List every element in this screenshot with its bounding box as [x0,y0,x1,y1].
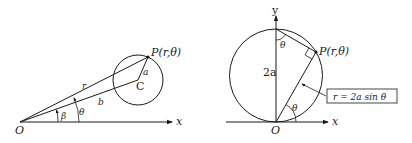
equation-label: r = 2a sin θ [333,92,387,102]
point-p [146,55,149,58]
equation-leader [302,84,326,96]
theta-label: θ [79,107,85,117]
radius-a-label: a [143,67,148,77]
beta-arc [57,110,59,122]
polar-diagram: O x P(r,θ) C a r b β θ O x y P(r,θ) 2a θ… [0,0,412,143]
theta-top-label: θ [280,40,286,50]
y-axis-label: y [271,4,279,17]
point-label: P(r,θ) [150,46,181,59]
left-figure: O x P(r,θ) C a r b β θ [15,46,183,137]
x-axis-label: x [176,115,183,128]
b-label: b [98,97,104,107]
x-axis-label: x [332,115,339,128]
center-label: C [136,80,144,93]
origin-label: O [15,124,24,137]
theta-bottom-label: θ [292,103,298,113]
point-p [314,50,317,53]
diameter-label: 2a [263,66,277,79]
origin-label: O [271,124,280,137]
beta-label: β [60,111,66,121]
right-figure: O x y P(r,θ) 2a θ θ r = 2a sin θ [226,4,397,137]
r-label: r [82,81,87,91]
point-label: P(r,θ) [318,45,349,58]
